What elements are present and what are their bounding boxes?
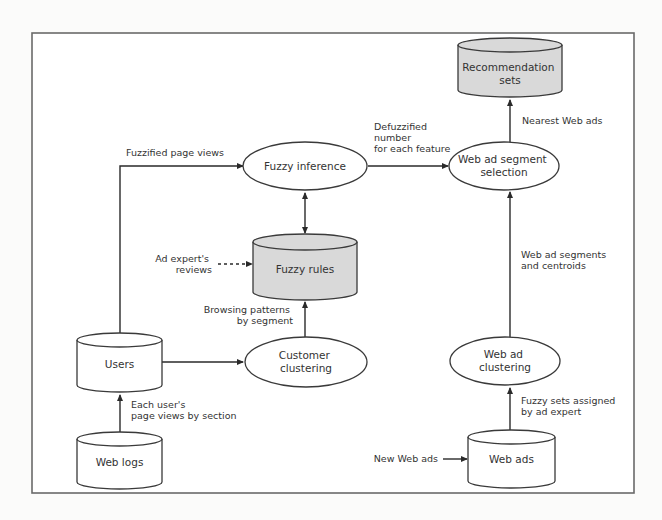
node-label: Fuzzy rules [276, 263, 335, 275]
system-diagram: Fuzzified page views Defuzzified number … [0, 0, 662, 520]
node-web-ad-clustering[interactable]: Web ad clustering [450, 337, 560, 385]
node-label: Web ad clustering [479, 348, 531, 373]
edge-label-fuzzified-page-views: Fuzzified page views [126, 147, 224, 158]
edge-label-new-web-ads: New Web ads [374, 453, 438, 464]
node-customer-clustering[interactable]: Customer clustering [245, 337, 367, 387]
node-label: Users [105, 358, 134, 370]
node-users[interactable]: Users [77, 333, 162, 392]
node-recommendation-sets[interactable]: Recommendation sets [458, 38, 562, 97]
node-web-ads[interactable]: Web ads [468, 430, 555, 488]
node-web-ad-segment-selection[interactable]: Web ad segment selection [449, 142, 559, 190]
node-web-logs[interactable]: Web logs [77, 432, 162, 489]
edge-label-nearest-web-ads: Nearest Web ads [522, 115, 603, 126]
node-fuzzy-rules[interactable]: Fuzzy rules [253, 234, 357, 300]
diagram-stage: Fuzzified page views Defuzzified number … [0, 0, 662, 520]
node-label: Web logs [96, 456, 144, 468]
node-label: Fuzzy inference [264, 160, 346, 172]
node-fuzzy-inference[interactable]: Fuzzy inference [243, 142, 367, 190]
node-label: Customer clustering [279, 349, 333, 374]
node-label: Web ads [489, 453, 534, 465]
